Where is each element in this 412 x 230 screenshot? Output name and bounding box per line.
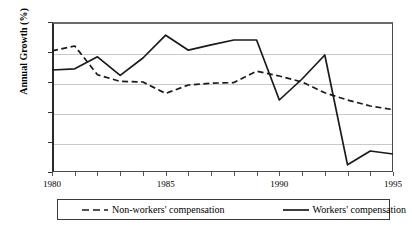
series-lines bbox=[52, 22, 393, 172]
x-axis-tick-mark bbox=[75, 172, 76, 176]
y-axis-title: Annual Growth (%) bbox=[18, 0, 29, 117]
x-axis-tick-label: 1985 bbox=[146, 179, 186, 189]
x-axis-tick-mark bbox=[120, 172, 121, 176]
legend-item-non-workers-compensation: Non-workers' compensation bbox=[82, 205, 225, 215]
line-chart: Annual Growth (%) 20%15%10%5%0%-5% 19801… bbox=[0, 0, 412, 230]
x-axis-tick-mark bbox=[211, 172, 212, 176]
solid-line-icon bbox=[283, 205, 309, 215]
x-axis-tick-mark bbox=[348, 172, 349, 176]
x-axis-tick-mark bbox=[188, 172, 189, 176]
legend-label-non-workers-compensation: Non-workers' compensation bbox=[112, 205, 225, 215]
x-axis-tick-label: 1980 bbox=[32, 179, 72, 189]
x-axis-tick-mark bbox=[166, 172, 167, 176]
x-axis-tick-mark bbox=[370, 172, 371, 176]
legend-label-workers-compensation: Workers' compensation bbox=[313, 205, 406, 215]
x-axis-tick-mark bbox=[52, 172, 53, 176]
x-axis-tick-mark bbox=[325, 172, 326, 176]
x-axis-tick-label: 1995 bbox=[373, 179, 412, 189]
dashed-line-icon bbox=[82, 205, 108, 215]
x-axis-tick-mark bbox=[393, 172, 394, 176]
x-axis-tick-mark bbox=[279, 172, 280, 176]
series-line-workers-compensation bbox=[52, 35, 393, 165]
x-axis-tick-mark bbox=[302, 172, 303, 176]
x-axis-tick-mark bbox=[257, 172, 258, 176]
x-axis-tick-mark bbox=[234, 172, 235, 176]
series-line-non-workers-compensation bbox=[52, 46, 393, 110]
legend-item-workers-compensation: Workers' compensation bbox=[283, 205, 406, 215]
chart-legend: Non-workers' compensation Workers' compe… bbox=[57, 199, 390, 220]
x-axis-tick-label: 1990 bbox=[259, 179, 299, 189]
x-axis-tick-mark bbox=[143, 172, 144, 176]
x-axis-tick-mark bbox=[97, 172, 98, 176]
